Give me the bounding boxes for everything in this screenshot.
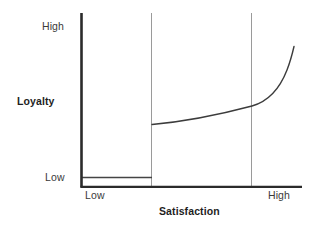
x-axis-tick-label-low: Low <box>85 190 105 201</box>
y-axis-title: Loyalty <box>17 96 54 107</box>
y-axis-tick-label-low: Low <box>45 172 65 183</box>
x-axis-tick-label-high: High <box>268 190 290 201</box>
y-axis-tick-label-high: High <box>42 21 64 32</box>
series-rising-loyalty-curve <box>152 47 294 125</box>
x-axis-title: Satisfaction <box>159 206 220 217</box>
loyalty-satisfaction-chart: High Low Loyalty Low High Satisfaction <box>0 0 324 231</box>
